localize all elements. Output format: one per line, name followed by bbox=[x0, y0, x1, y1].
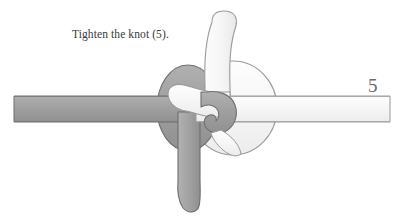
knot-diagram-figure: Tighten the knot (5). 5 bbox=[0, 0, 402, 223]
step-number-label: 5 bbox=[368, 76, 378, 95]
caption-text: Tighten the knot (5). bbox=[72, 28, 169, 40]
dark-rope-bottom-tail bbox=[178, 112, 201, 212]
knot-illustration bbox=[0, 0, 402, 223]
